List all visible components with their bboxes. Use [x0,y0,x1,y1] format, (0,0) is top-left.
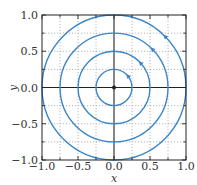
phase-portrait-chart: −1.0−0.50.00.51.0 −1.0−0.50.00.51.0 x y [0,0,197,185]
y-tick-label: −1.0 [11,154,38,167]
y-tick-label: 1.0 [21,9,39,22]
x-tick-label: 0.5 [141,160,159,173]
x-tick-label: 1.0 [177,160,195,173]
x-tick-label: −0.5 [65,160,92,173]
equilibrium-point [112,86,116,90]
x-axis-label: x [111,172,118,185]
y-tick-label: −0.5 [11,118,38,131]
y-axis-label: y [7,84,20,92]
y-tick-label: 0.0 [21,82,39,95]
y-tick-label: 0.5 [21,45,39,58]
